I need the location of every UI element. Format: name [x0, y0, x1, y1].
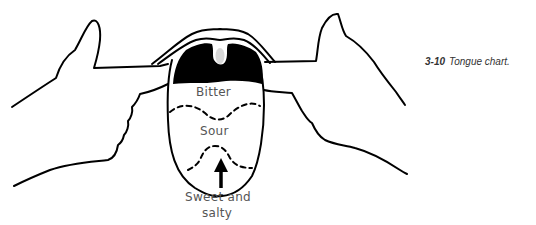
right-hand-outline	[265, 14, 405, 105]
region-label-sour: Sour	[200, 124, 229, 138]
figure-caption: 3-10Tongue chart.	[425, 56, 510, 67]
region-label-sweet-salty-line1: Sweet and	[185, 190, 251, 204]
tongue-diagram	[0, 0, 536, 225]
bitter-sour-boundary	[170, 104, 260, 120]
region-label-sweet-salty-line2: salty	[202, 206, 232, 220]
region-label-bitter: Bitter	[196, 85, 231, 99]
left-hand-lower-outline	[14, 84, 168, 186]
figure-number: 3-10	[425, 56, 445, 67]
arrow-icon	[214, 158, 228, 188]
right-hand-lower-outline	[264, 90, 407, 174]
figure-caption-text: Tongue chart.	[449, 56, 510, 67]
uvula	[216, 48, 225, 64]
left-hand-outline	[12, 20, 168, 107]
